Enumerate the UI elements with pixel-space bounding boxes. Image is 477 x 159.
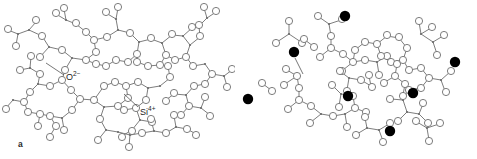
oxygen-ions-a (2, 3, 235, 150)
panel-a-caption: a (18, 140, 23, 149)
sodium-ion (340, 11, 350, 21)
silica-glass-figure: O2− Si4+ a (0, 0, 477, 159)
bond-lines-b (263, 17, 450, 141)
sodium-ion (450, 57, 460, 67)
panel-b-network-diagram (237, 0, 477, 159)
panel-b-sodium-silicate-glass: Na+ b (237, 0, 477, 159)
sodium-ion (343, 91, 353, 101)
sodium-ion (385, 126, 395, 136)
silicon-charge: 4+ (148, 105, 155, 112)
sodium-ion (243, 94, 253, 104)
sodium-ion (408, 88, 418, 98)
oxygen-charge: 2− (73, 70, 80, 77)
panel-a-network-diagram (0, 0, 235, 159)
oxygen-ion-label: O2− (66, 71, 80, 82)
sodium-leader-line (295, 58, 303, 74)
label-leader-lines-b (295, 58, 303, 74)
panel-a-silica-glass: O2− Si4+ a (0, 0, 235, 159)
sodium-ion (289, 47, 299, 57)
silicon-ion-label: Si4+ (140, 106, 155, 117)
